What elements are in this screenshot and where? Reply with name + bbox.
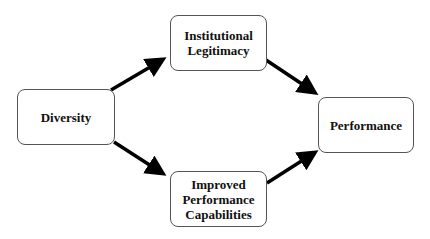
arrow-diversity-to-legitimacy [111,60,162,90]
node-diversity: Diversity [17,89,115,145]
node-institutional-legitimacy: Institutional Legitimacy [170,15,267,71]
node-diversity-label: Diversity [41,110,92,125]
node-improved-performance-capabilities: Improved Performance Capabilities [170,171,267,227]
arrow-legitimacy-to-performance [266,60,314,92]
node-performance-label: Performance [330,118,402,133]
arrow-capabilities-to-performance [267,153,314,183]
node-performance: Performance [318,97,414,153]
arrow-diversity-to-capabilities [114,142,162,173]
node-improved-performance-capabilities-label: Improved Performance Capabilities [182,177,254,222]
node-institutional-legitimacy-label: Institutional Legitimacy [184,28,253,58]
